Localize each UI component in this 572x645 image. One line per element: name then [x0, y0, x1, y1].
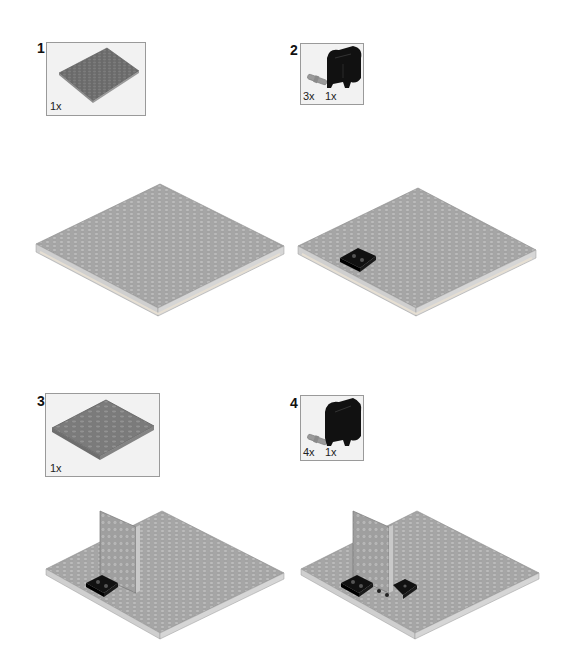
- step-1-assembly-baseplate: [30, 180, 290, 320]
- step-2-assembly-baseplate: [292, 184, 542, 324]
- step-4-assembly: [295, 505, 545, 640]
- parts-callout-step-1: 1x: [46, 42, 146, 116]
- black-brick-part-icon: [321, 44, 365, 92]
- step-3-assembly: [40, 505, 290, 640]
- part-quantity-pins: 3x: [303, 90, 315, 102]
- part-quantity-brick: 1x: [325, 90, 337, 102]
- step-number-1: 1: [37, 40, 45, 56]
- part-quantity: 1x: [50, 100, 62, 112]
- parts-callout-step-2: 3x 1x: [300, 43, 364, 105]
- step-number-4: 4: [290, 395, 298, 411]
- part-quantity-pins: 4x: [303, 446, 315, 458]
- step-number-2: 2: [290, 42, 298, 58]
- step-number-3: 3: [37, 393, 45, 409]
- plate-part-icon: [46, 394, 159, 476]
- part-quantity-brick: 1x: [325, 446, 337, 458]
- parts-callout-step-4: 4x 1x: [300, 395, 364, 461]
- black-brick-part-icon: [319, 396, 365, 450]
- part-quantity: 1x: [50, 462, 62, 474]
- parts-callout-step-3: 1x: [45, 393, 160, 477]
